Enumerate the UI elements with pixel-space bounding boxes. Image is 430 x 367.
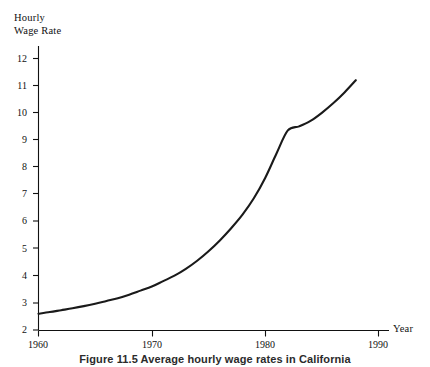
x-axis-title: Year — [393, 322, 413, 335]
x-tick-label: 1970 — [132, 339, 172, 350]
y-axis-title: Hourly Wage Rate — [14, 11, 61, 37]
y-tick-label: 11 — [5, 80, 27, 91]
y-tick-label: 8 — [5, 161, 27, 172]
figure-caption: Figure 11.5 Average hourly wage rates in… — [0, 353, 430, 365]
y-tick-label: 12 — [5, 53, 27, 64]
x-tick-label: 1960 — [18, 339, 58, 350]
x-tick-label: 1990 — [358, 339, 398, 350]
y-tick-label: 3 — [5, 297, 27, 308]
y-axis-title-line-1: Hourly — [14, 11, 61, 24]
y-tick-label: 2 — [5, 324, 27, 335]
y-tick-label: 5 — [5, 243, 27, 254]
y-tick-label: 10 — [5, 107, 27, 118]
data-line-series-0 — [39, 80, 356, 313]
x-tick-label: 1980 — [245, 339, 285, 350]
y-tick-label: 6 — [5, 215, 27, 226]
y-axis-title-line-2: Wage Rate — [14, 24, 61, 37]
y-tick-label: 4 — [5, 270, 27, 281]
y-axis-ticks — [33, 59, 39, 331]
chart-canvas — [0, 0, 430, 367]
x-axis-ticks — [39, 331, 379, 337]
figure-container: Hourly Wage Rate Year 12 11 10 9 8 7 6 5… — [0, 0, 430, 367]
y-tick-label: 9 — [5, 134, 27, 145]
y-tick-label: 7 — [5, 188, 27, 199]
